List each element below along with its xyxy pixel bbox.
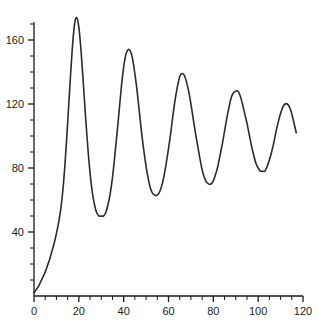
figure-caption-partial-text — [0, 319, 318, 329]
y-tick-label: 80 — [12, 162, 24, 174]
x-axis-ticks — [34, 296, 303, 302]
x-tick-label: 60 — [162, 305, 174, 317]
chart-axes — [34, 22, 303, 296]
x-tick-label: 20 — [73, 305, 85, 317]
x-tick-label: 120 — [294, 305, 312, 317]
x-axis-tick-labels: 020406080100120 — [31, 305, 312, 317]
chart-figure: 4080120160 020406080100120 — [0, 0, 318, 329]
y-tick-label: 160 — [6, 34, 24, 46]
damped-oscillation-line-chart: 4080120160 020406080100120 — [0, 0, 318, 329]
x-tick-label: 40 — [118, 305, 130, 317]
y-tick-label: 120 — [6, 98, 24, 110]
x-tick-label: 0 — [31, 305, 37, 317]
x-tick-label: 100 — [249, 305, 267, 317]
y-axis-ticks — [28, 24, 34, 280]
y-tick-label: 40 — [12, 226, 24, 238]
y-axis-tick-labels: 4080120160 — [6, 34, 24, 238]
x-tick-label: 80 — [207, 305, 219, 317]
series-line-damped-oscillation — [34, 18, 296, 293]
